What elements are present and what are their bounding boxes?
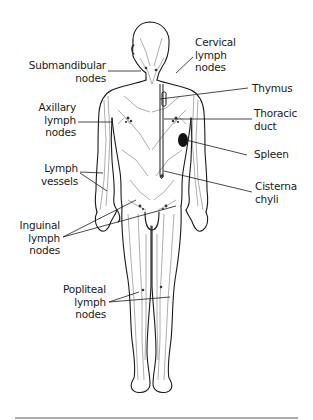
body-outline (95, 22, 207, 393)
leader-inguinal-1 (63, 200, 136, 237)
label-cervical-lymph-nodes: Cervical lymph nodes (195, 36, 255, 74)
label-inguinal-lymph-nodes: Inguinal lymph nodes (4, 219, 60, 257)
leader-cervical (176, 57, 193, 73)
label-cisterna-chyli: Cisterna chyli (255, 180, 313, 205)
leader-spleen (186, 140, 247, 155)
label-axillary-lymph-nodes: Axillary lymph nodes (30, 101, 76, 139)
leader-lymph-vessels-2 (80, 173, 107, 191)
leader-inguinal-2 (63, 206, 176, 237)
label-lymph-vessels: Lymph vessels (30, 162, 78, 187)
leader-cisterna-chyli (164, 171, 252, 192)
leader-lines (63, 57, 252, 302)
leader-thymus (160, 88, 248, 99)
lymphatic-system-diagram: Submandibular nodes Axillary lymph nodes… (0, 0, 313, 420)
lymph-vessel-network (100, 38, 203, 380)
label-popliteal-lymph-nodes: Popliteal lymph nodes (48, 283, 106, 321)
label-submandibular-nodes: Submandibular nodes (26, 59, 106, 84)
label-thoracic-duct: Thoracic duct (254, 107, 312, 132)
leader-popliteal-2 (109, 297, 170, 302)
leader-lymph-vessels-1 (80, 172, 103, 173)
label-thymus: Thymus (252, 82, 312, 95)
label-spleen: Spleen (254, 148, 312, 161)
